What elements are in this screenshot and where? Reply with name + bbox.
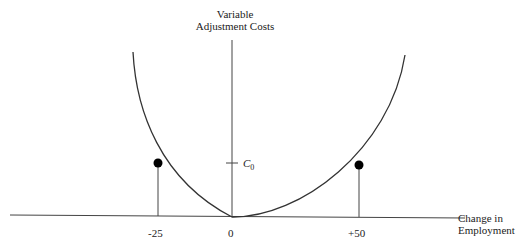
x-axis-label-line2: Employment xyxy=(458,224,515,236)
y-axis-label-line1: Variable xyxy=(190,8,280,20)
cost-curve xyxy=(133,52,405,217)
y-axis-label: Variable Adjustment Costs xyxy=(190,8,280,32)
point-minus25 xyxy=(154,159,163,168)
c0-label: C0 xyxy=(243,157,254,174)
tick-minus25: -25 xyxy=(148,227,163,239)
point-plus50 xyxy=(355,161,364,170)
x-axis-label: Change in Employment xyxy=(458,212,515,236)
y-axis-label-line2: Adjustment Costs xyxy=(190,20,280,32)
x-axis-label-line1: Change in xyxy=(458,212,515,224)
tick-plus50: +50 xyxy=(348,227,365,239)
adjustment-cost-diagram xyxy=(0,0,528,251)
tick-zero: 0 xyxy=(228,227,234,239)
c0-subscript: 0 xyxy=(250,163,254,172)
